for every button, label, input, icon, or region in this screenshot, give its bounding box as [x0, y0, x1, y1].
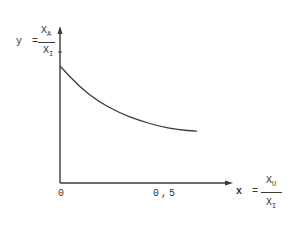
x-axis-label: x = [236, 187, 258, 197]
x-label-fraction-bar [261, 192, 282, 193]
x-axis-arrow-icon [225, 181, 233, 186]
y-label-numerator: XA [41, 26, 51, 36]
x-label-numerator: XU [266, 176, 276, 186]
x-tick-0-5: 0,5 [153, 189, 177, 199]
x-label-eq: = [252, 186, 258, 197]
data-curve [60, 66, 197, 131]
x-label-denominator: XI [266, 198, 276, 208]
x-tick-0: 0 [58, 189, 64, 199]
y-label-fraction-bar [38, 42, 55, 43]
y-label-lhs: y [16, 36, 22, 47]
x-label-lhs: x [236, 186, 242, 197]
y-label-denominator: XI [43, 46, 53, 56]
y-axis-label: y = [16, 37, 38, 47]
y-axis-arrow-icon [58, 26, 63, 34]
